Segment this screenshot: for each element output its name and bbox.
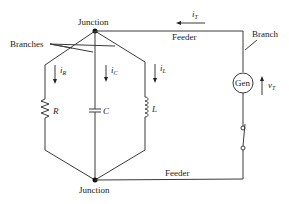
- resistor-label: R: [52, 106, 59, 116]
- branch-pointer: [245, 40, 257, 50]
- wire-top-right-diagonal: [95, 31, 145, 62]
- bottom-junction-label: Junction: [79, 185, 110, 195]
- v-t-arrowhead: [260, 76, 264, 81]
- wire-bottom-left-diagonal: [45, 150, 95, 180]
- inductor-label: L: [151, 104, 157, 114]
- switch-blade: [243, 124, 245, 146]
- branches-label: Branches: [10, 39, 44, 49]
- inductor-symbol: [145, 97, 148, 117]
- top-feeder-label: Feeder: [172, 32, 197, 42]
- circuit-diagram: Junction Branches R iR C iC L iL Junctio…: [0, 0, 289, 204]
- bottom-feeder-wire: [95, 179, 243, 180]
- resistor-symbol: [41, 99, 49, 118]
- bottom-feeder-label: Feeder: [165, 168, 190, 178]
- i-l-arrowhead: [153, 78, 157, 83]
- i-r-label: iR: [60, 65, 67, 76]
- top-junction-label: Junction: [78, 17, 109, 27]
- v-t-label: vT: [268, 80, 276, 91]
- i-l-label: iL: [160, 63, 167, 74]
- i-c-label: iC: [111, 65, 119, 76]
- i-t-arrowhead: [176, 21, 181, 25]
- i-c-arrowhead: [104, 77, 108, 82]
- i-r-arrowhead: [53, 79, 57, 84]
- switch-terminal-bottom: [241, 146, 245, 150]
- generator-label: Gen: [235, 78, 250, 88]
- capacitor-label: C: [103, 106, 110, 116]
- i-t-label: iT: [192, 9, 199, 20]
- wire-bottom-right-diagonal: [95, 150, 145, 180]
- branch-label: Branch: [252, 29, 278, 39]
